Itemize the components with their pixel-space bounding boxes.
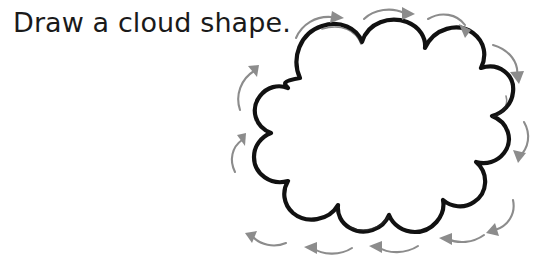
arrow-left-lower-path	[232, 140, 242, 172]
arrow-bottom-right-path	[448, 235, 484, 242]
arrow-top-center-head	[402, 7, 415, 20]
cloud-drawing-area[interactable]	[0, 0, 542, 262]
arrow-top-left-head	[330, 11, 344, 23]
arrow-top-center-path	[364, 10, 404, 19]
arrow-bottom-left-head	[245, 231, 257, 243]
arrow-bottom-center-left	[304, 242, 352, 254]
arrow-right-lower-path	[495, 200, 514, 230]
arrow-left-lower	[232, 133, 246, 172]
arrow-right-middle	[513, 122, 528, 163]
worksheet-page: Draw a cloud shape.	[0, 0, 542, 262]
arrow-bottom-left	[245, 231, 286, 245]
arrow-bottom-center-right	[369, 241, 418, 253]
arrow-bottom-center-left-head	[304, 242, 317, 254]
arrow-bottom-center-right-head	[369, 241, 382, 253]
arrow-bottom-right	[439, 233, 484, 245]
cloud-shape[interactable]	[254, 20, 513, 232]
cloud-outline-path[interactable]	[254, 20, 513, 232]
arrow-bottom-right-head	[439, 233, 452, 245]
arrow-top-right-path	[428, 14, 465, 25]
arrow-right-lower	[486, 200, 514, 236]
arrow-left-upper-path	[238, 71, 254, 110]
arrow-bottom-center-left-path	[313, 248, 352, 254]
arrow-bottom-center-right-path	[378, 246, 418, 252]
arrow-bottom-left-path	[252, 236, 286, 245]
